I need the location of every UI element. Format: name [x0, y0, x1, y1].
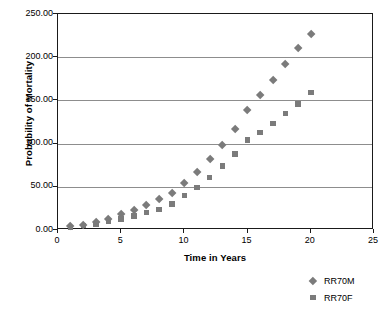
x-axis-tick-marks: [57, 229, 374, 234]
y-axis-tick-label: 150.00: [7, 95, 53, 104]
data-point: [155, 194, 164, 203]
legend-item-label: RR70F: [324, 293, 353, 303]
data-point: [220, 163, 226, 169]
data-point: [207, 175, 213, 181]
x-axis-tick-mark: [183, 229, 184, 233]
data-point: [81, 223, 87, 229]
data-point: [192, 168, 201, 177]
plot-area: [57, 13, 373, 229]
data-point: [230, 124, 239, 133]
data-point: [106, 219, 112, 225]
square-marker-icon: [306, 293, 320, 303]
data-point: [243, 105, 252, 114]
data-point: [169, 201, 175, 207]
y-axis-tick-label: 250.00: [7, 9, 53, 18]
x-axis-title: Time in Years: [57, 252, 373, 263]
diamond-marker-icon: [306, 276, 320, 286]
legend-item-label: RR70M: [324, 276, 355, 286]
data-point: [205, 155, 214, 164]
x-axis-tick-label: 0: [37, 236, 77, 245]
data-point: [308, 90, 314, 96]
data-point: [131, 213, 137, 219]
data-point: [167, 188, 176, 197]
x-axis-tick-mark: [310, 229, 311, 233]
y-axis-tick-label: 200.00: [7, 52, 53, 61]
data-point: [156, 207, 162, 213]
data-point: [144, 210, 150, 216]
x-axis-tick-label: 10: [163, 236, 203, 245]
x-axis-tick-mark: [57, 229, 58, 233]
data-point: [281, 60, 290, 69]
x-axis-tick-label: 5: [100, 236, 140, 245]
data-point: [306, 29, 315, 38]
gridline: [58, 187, 372, 188]
chart-legend: RR70MRR70F: [306, 272, 382, 306]
y-axis-tick-label: 50.00: [7, 181, 53, 190]
gridline: [58, 57, 372, 58]
gridline: [58, 144, 372, 145]
data-point: [268, 76, 277, 85]
legend-item: RR70M: [306, 272, 382, 289]
data-point: [93, 221, 99, 227]
data-point: [182, 193, 188, 199]
x-axis-tick-mark: [373, 229, 374, 233]
x-axis-tick-label: 20: [290, 236, 330, 245]
data-point: [245, 137, 251, 143]
x-axis-tick-label: 15: [227, 236, 267, 245]
x-axis-tick-labels: 0510152025: [57, 236, 374, 250]
data-point: [283, 111, 289, 117]
data-point: [142, 200, 151, 209]
data-point: [118, 216, 124, 222]
legend-item: RR70F: [306, 289, 382, 306]
data-point: [232, 151, 238, 157]
data-point: [270, 121, 276, 127]
y-axis-tick-labels: 0.0050.00100.00150.00200.00250.00: [6, 0, 53, 318]
data-point: [256, 91, 265, 100]
data-point: [218, 141, 227, 150]
x-axis-tick-mark: [247, 229, 248, 233]
gridline: [58, 100, 372, 101]
data-point: [295, 101, 301, 107]
data-point: [257, 130, 263, 136]
x-axis-tick-label: 25: [353, 236, 382, 245]
data-point: [194, 185, 200, 191]
y-axis-tick-label: 0.00: [7, 225, 53, 234]
y-axis-tick-label: 100.00: [7, 138, 53, 147]
x-axis-tick-mark: [120, 229, 121, 233]
mortality-scatter-chart: Probability of Mortality 0.0050.00100.00…: [0, 0, 382, 318]
data-point: [294, 43, 303, 52]
